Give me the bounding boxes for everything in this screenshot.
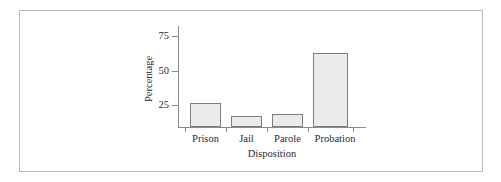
bar-jail	[231, 116, 262, 127]
y-tick-mark-50	[172, 71, 178, 72]
bar-parole	[272, 114, 303, 127]
x-axis-line	[178, 127, 366, 128]
y-axis-title: Percentage	[142, 44, 156, 114]
x-tick-mark-1	[226, 128, 227, 132]
y-tick-label-75: 75	[159, 31, 170, 42]
bar-prison	[190, 103, 221, 127]
x-tick-label-probation: Probation	[307, 133, 363, 145]
x-axis-title: Disposition	[178, 148, 366, 159]
x-tick-mark-4	[353, 128, 354, 132]
y-tick-mark-25	[172, 105, 178, 106]
y-tick-mark-75	[172, 36, 178, 37]
y-tick-label-50: 50	[159, 66, 170, 77]
x-tick-mark-2	[267, 128, 268, 132]
bar-probation	[313, 53, 348, 127]
x-tick-label-prison: Prison	[183, 133, 228, 145]
y-axis-line	[178, 26, 179, 128]
x-tick-mark-0	[185, 128, 186, 132]
x-tick-label-parole: Parole	[266, 133, 309, 145]
bar-chart: 75 50 25 Percentage Prison Jail Parole P…	[0, 0, 501, 182]
y-tick-label-25: 25	[159, 100, 170, 111]
x-tick-label-jail: Jail	[226, 133, 267, 145]
x-tick-mark-3	[308, 128, 309, 132]
